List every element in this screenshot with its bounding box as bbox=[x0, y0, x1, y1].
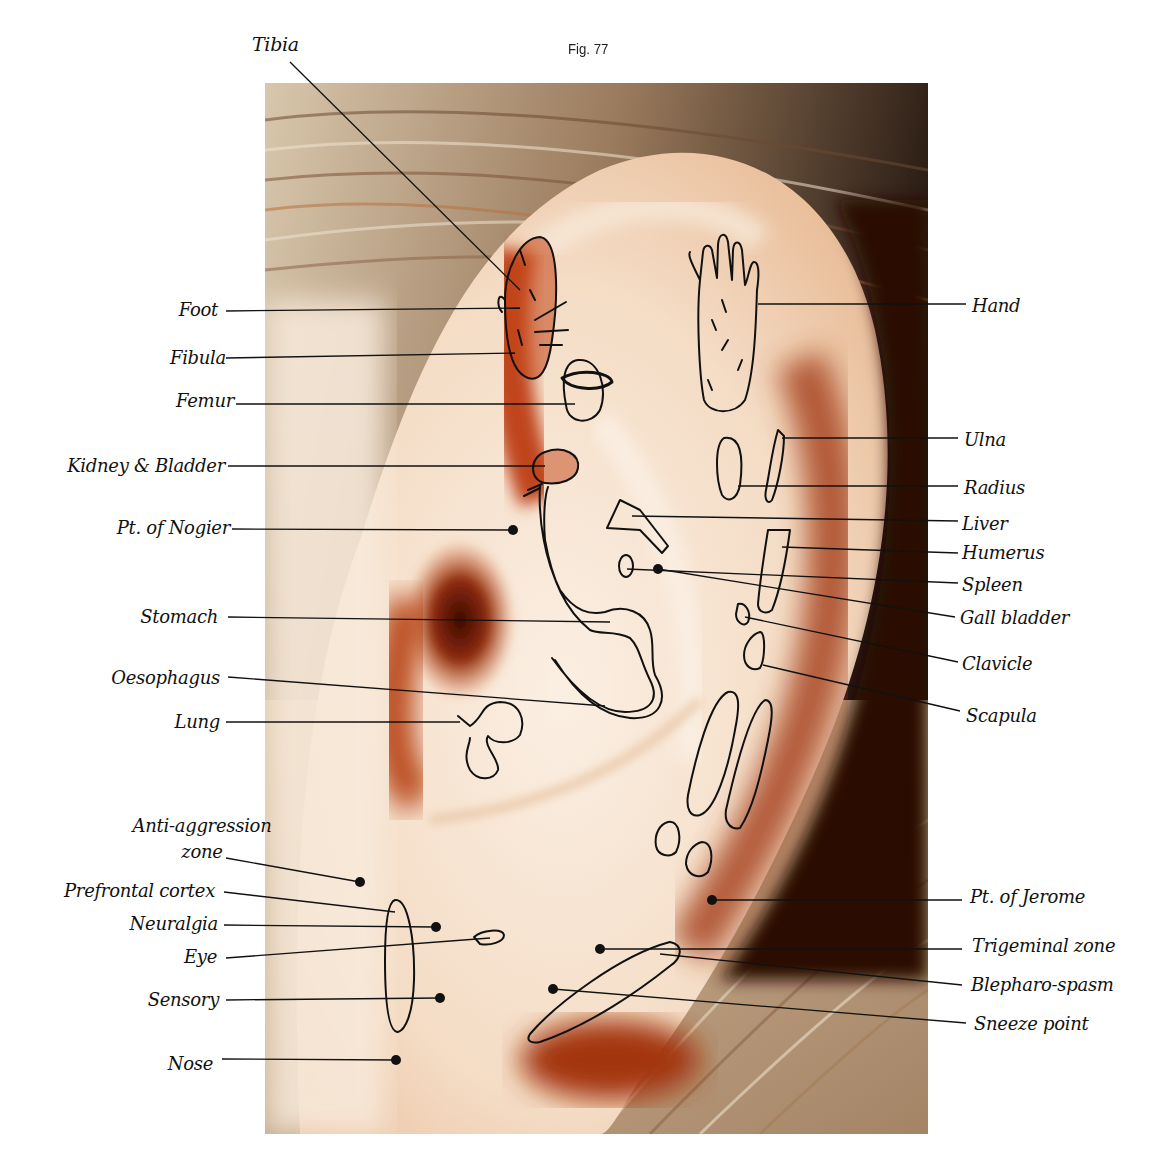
label-prefrontal-cortex: Prefrontal cortex bbox=[64, 881, 215, 901]
acupoint-dot-sneeze-point bbox=[548, 984, 558, 994]
label-pt-of-jerome: Pt. of Jerome bbox=[970, 887, 1085, 907]
label-liver: Liver bbox=[962, 514, 1008, 534]
label-eye: Eye bbox=[184, 947, 217, 967]
label-pt-of-nogier: Pt. of Nogier bbox=[117, 518, 230, 538]
label-spleen: Spleen bbox=[962, 575, 1023, 595]
label-ulna: Ulna bbox=[964, 430, 1006, 450]
label-blepharo-spasm: Blepharo-spasm bbox=[971, 975, 1114, 995]
label-gall-bladder: Gall bladder bbox=[960, 608, 1069, 628]
label-lung: Lung bbox=[175, 712, 220, 732]
acupoint-dot-pt-of-nogier bbox=[508, 525, 518, 535]
label-foot: Foot bbox=[179, 300, 218, 320]
label-kidney-bladder: Kidney & Bladder bbox=[67, 456, 225, 476]
acupoint-dot-gall-bladder bbox=[653, 564, 663, 574]
label-radius: Radius bbox=[964, 478, 1025, 498]
label-neuralgia: Neuralgia bbox=[130, 914, 218, 934]
ear-acupuncture-figure: Fig. 77 bbox=[0, 0, 1176, 1164]
label-hand: Hand bbox=[972, 296, 1020, 316]
acupoint-dot-anti-aggression-zone bbox=[355, 877, 365, 887]
acupoint-dot-trigeminal-zone bbox=[595, 944, 605, 954]
label-nose: Nose bbox=[168, 1054, 213, 1074]
acupoint-dot-sensory bbox=[435, 993, 445, 1003]
label-humerus: Humerus bbox=[962, 543, 1044, 563]
label-sensory: Sensory bbox=[148, 990, 219, 1010]
label-oesophagus: Oesophagus bbox=[111, 668, 220, 688]
label-anti-aggression-zone: Anti-aggression zone bbox=[112, 816, 292, 862]
label-fibula: Fibula bbox=[170, 348, 226, 368]
label-trigeminal-zone: Trigeminal zone bbox=[972, 936, 1115, 956]
label-clavicle: Clavicle bbox=[962, 654, 1032, 674]
acupoint-dot-pt-of-jerome bbox=[707, 895, 717, 905]
label-scapula: Scapula bbox=[966, 706, 1037, 726]
acupoint-dot-neuralgia bbox=[431, 922, 441, 932]
acupoint-dot-nose bbox=[391, 1055, 401, 1065]
label-anti-aggression-line1: Anti-aggression bbox=[112, 816, 292, 836]
label-stomach: Stomach bbox=[140, 607, 218, 627]
label-anti-aggression-line2: zone bbox=[112, 842, 292, 862]
label-femur: Femur bbox=[176, 391, 234, 411]
label-tibia: Tibia bbox=[252, 34, 299, 54]
label-sneeze-point: Sneeze point bbox=[974, 1014, 1088, 1034]
